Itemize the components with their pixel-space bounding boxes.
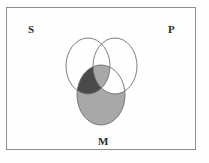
venn-diagram-figure: S P M <box>0 0 209 163</box>
label-m: M <box>98 136 109 147</box>
label-p: P <box>168 24 175 35</box>
label-s: S <box>28 24 34 35</box>
